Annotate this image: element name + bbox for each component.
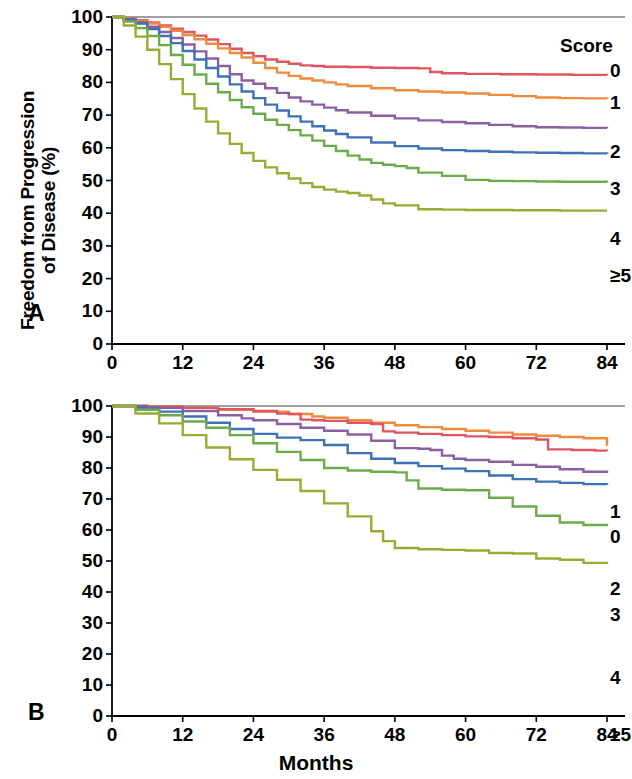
legend-label-score-4: 4 — [610, 667, 621, 689]
curve-score-4 — [112, 406, 607, 526]
y-tick-label: 30 — [82, 612, 103, 634]
y-tick-label: 20 — [82, 643, 103, 665]
y-tick-label: 80 — [82, 71, 103, 93]
y-tick-label: 90 — [82, 39, 103, 61]
curve-score-0 — [112, 17, 607, 75]
legend-title: Score — [560, 35, 613, 57]
y-tick-label: 80 — [82, 457, 103, 479]
legend-label-score-0: 0 — [610, 526, 621, 548]
legend-label-score-1: 1 — [610, 92, 621, 114]
curve-score-2 — [112, 17, 607, 128]
y-tick-label: 10 — [82, 674, 103, 696]
x-tick-label: 84 — [587, 352, 627, 374]
y-tick-label: 60 — [82, 137, 103, 159]
legend-label-score-3: 3 — [610, 178, 621, 200]
legend-label-score-2: 2 — [610, 141, 621, 163]
x-tick-label: 36 — [304, 352, 344, 374]
legend-label-score-0: 0 — [610, 60, 621, 82]
x-tick-label: 72 — [516, 352, 556, 374]
x-tick-label: 48 — [375, 352, 415, 374]
x-tick-label: 36 — [304, 724, 344, 746]
curve-score-0 — [112, 406, 607, 451]
y-tick-label: 50 — [82, 550, 103, 572]
y-tick-label: 100 — [71, 6, 103, 28]
legend-label-score-4: 4 — [610, 228, 621, 250]
y-tick-label: 40 — [82, 202, 103, 224]
y-tick-label: 30 — [82, 235, 103, 257]
curve-score-≥5 — [112, 406, 607, 564]
y-tick-label: 40 — [82, 581, 103, 603]
legend-label-score-≥5: ≥5 — [610, 265, 631, 287]
x-tick-label: 24 — [233, 724, 273, 746]
legend-label-score-≥5: ≥5 — [610, 724, 631, 746]
y-tick-label: 50 — [82, 170, 103, 192]
y-tick-label: 20 — [82, 268, 103, 290]
x-axis-title: Months — [0, 751, 632, 775]
x-tick-label: 48 — [375, 724, 415, 746]
y-tick-label: 10 — [82, 300, 103, 322]
y-tick-label: 90 — [82, 426, 103, 448]
x-tick-label: 12 — [163, 724, 203, 746]
curve-score-1 — [112, 17, 607, 99]
x-tick-label: 0 — [92, 724, 132, 746]
y-tick-label: 70 — [82, 488, 103, 510]
x-tick-label: 60 — [446, 724, 486, 746]
y-tick-label: 100 — [71, 395, 103, 417]
x-tick-label: 24 — [233, 352, 273, 374]
y-tick-label: 70 — [82, 104, 103, 126]
legend-label-score-2: 2 — [610, 578, 621, 600]
x-tick-label: 12 — [163, 352, 203, 374]
legend-label-score-1: 1 — [610, 501, 621, 523]
panel-a: Freedom from Progression of Disease (%) … — [0, 0, 632, 390]
y-tick-label: 60 — [82, 519, 103, 541]
x-tick-label: 72 — [516, 724, 556, 746]
curve-score-4 — [112, 17, 607, 182]
legend-label-score-3: 3 — [610, 604, 621, 626]
x-tick-label: 0 — [92, 352, 132, 374]
curve-score-3 — [112, 406, 607, 485]
x-tick-label: 60 — [446, 352, 486, 374]
panel-b: Overall Survival (%) B 10090807060504030… — [0, 389, 632, 779]
